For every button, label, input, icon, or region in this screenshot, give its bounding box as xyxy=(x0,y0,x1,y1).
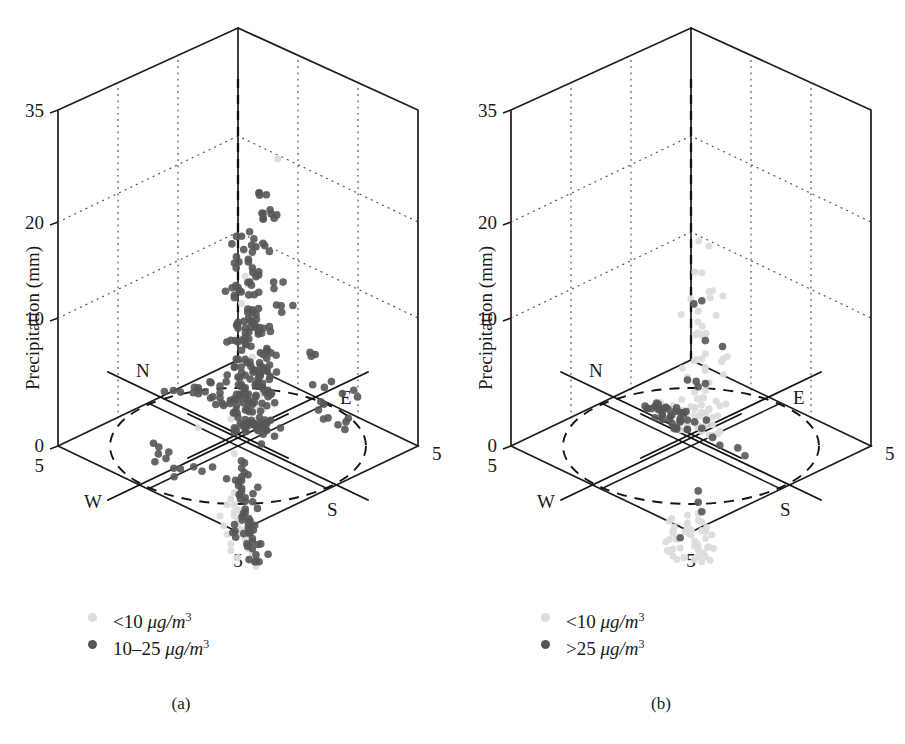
data-point xyxy=(177,388,185,396)
data-point xyxy=(161,388,169,396)
data-point xyxy=(209,463,217,471)
compass-label-n: N xyxy=(136,360,150,381)
data-point xyxy=(258,400,266,408)
data-point xyxy=(707,294,714,301)
panel-caption-a: (a) xyxy=(0,694,407,714)
data-point xyxy=(694,396,701,403)
data-point xyxy=(246,517,254,525)
z-tick-20: 20 xyxy=(478,212,497,233)
data-point xyxy=(702,535,709,542)
data-point xyxy=(354,393,362,401)
data-point xyxy=(308,353,316,361)
data-point xyxy=(235,478,243,486)
data-point xyxy=(713,397,720,404)
panel-a: Precipitation (mm) xyxy=(0,0,452,744)
data-point xyxy=(165,448,173,456)
data-point xyxy=(714,412,721,419)
data-point xyxy=(170,473,178,481)
data-point xyxy=(238,381,246,389)
data-point xyxy=(702,337,710,345)
compass-label-s: S xyxy=(780,499,791,520)
data-point xyxy=(289,302,297,310)
data-point xyxy=(249,498,257,506)
data-point xyxy=(151,458,159,466)
legend-item-light-b: <10 μg/m3 xyxy=(453,604,905,631)
z-tick-10: 10 xyxy=(478,308,497,329)
z-tick-10: 10 xyxy=(25,308,44,329)
data-point xyxy=(252,551,260,559)
data-point xyxy=(260,385,268,393)
data-point xyxy=(676,534,684,542)
data-point xyxy=(682,528,689,535)
data-point xyxy=(702,380,710,388)
data-point xyxy=(253,426,261,434)
data-point xyxy=(207,379,215,387)
data-point xyxy=(257,362,265,370)
data-point xyxy=(231,513,238,520)
data-point xyxy=(682,408,690,416)
data-point xyxy=(249,308,257,316)
data-point xyxy=(253,315,261,323)
data-point xyxy=(263,368,271,376)
data-point xyxy=(267,416,275,424)
data-point xyxy=(224,501,231,508)
data-point xyxy=(700,549,707,556)
data-point xyxy=(677,545,684,552)
data-point xyxy=(309,381,317,389)
plane-label-left: 5 xyxy=(35,455,45,476)
data-point xyxy=(709,287,716,294)
data-point xyxy=(691,543,698,550)
z-tick-20: 20 xyxy=(25,212,44,233)
data-point xyxy=(246,228,254,236)
data-point xyxy=(703,416,711,424)
data-point xyxy=(235,554,242,561)
data-point xyxy=(232,407,240,415)
data-point xyxy=(273,301,281,309)
data-point xyxy=(684,376,692,384)
data-point xyxy=(653,399,661,407)
data-point xyxy=(231,294,239,302)
plane-label-right: 5 xyxy=(885,443,895,464)
data-point xyxy=(231,396,239,404)
scatter3d-a: 0 10 20 35 xyxy=(0,0,452,600)
legend-label-dark: >25 μg/m3 xyxy=(566,631,645,662)
data-point xyxy=(254,541,262,549)
data-point xyxy=(709,434,717,442)
data-point xyxy=(698,409,705,416)
data-point xyxy=(259,239,267,247)
data-point xyxy=(257,407,265,415)
data-point xyxy=(150,440,158,448)
data-point xyxy=(279,278,287,286)
data-point xyxy=(237,495,245,503)
data-point xyxy=(698,297,706,305)
data-point xyxy=(704,544,711,551)
axes-box-b xyxy=(511,28,871,446)
data-point xyxy=(321,384,329,392)
data-point xyxy=(231,450,238,457)
panel-caption-b: (b) xyxy=(435,694,887,714)
data-point xyxy=(273,368,281,376)
data-point xyxy=(233,233,241,241)
data-point xyxy=(702,387,709,394)
data-point xyxy=(263,345,271,353)
compass-label-w: W xyxy=(84,491,102,512)
data-point xyxy=(238,300,245,307)
data-point xyxy=(231,521,239,529)
data-point xyxy=(248,416,256,424)
data-point xyxy=(334,421,342,429)
data-point xyxy=(242,273,249,280)
data-point xyxy=(719,343,727,351)
data-point xyxy=(246,529,254,537)
data-point xyxy=(698,558,705,565)
data-point xyxy=(664,406,672,414)
data-point xyxy=(233,426,241,434)
data-point xyxy=(315,406,323,414)
data-point xyxy=(698,269,705,276)
data-point xyxy=(707,557,714,564)
plane-label-right: 5 xyxy=(432,443,442,464)
data-point xyxy=(699,323,706,330)
data-point xyxy=(320,415,328,423)
data-point xyxy=(698,402,705,409)
data-point xyxy=(266,376,274,384)
data-point xyxy=(201,388,209,396)
